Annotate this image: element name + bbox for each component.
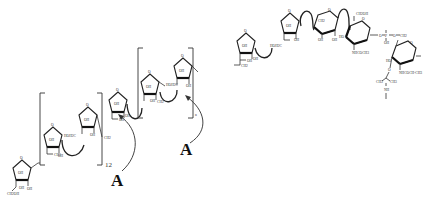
svg-text:CH2: CH2 [318,19,325,23]
svg-text:OH: OH [253,57,259,61]
svg-text:NHCOCH-CH3: NHCOCH-CH3 [399,71,422,75]
svg-text:HO: HO [386,59,392,63]
svg-text:CH3: CH3 [390,80,397,84]
svg-text:O: O [328,8,331,12]
svg-text:OH: OH [58,154,64,158]
svg-text:O: O [388,68,391,72]
svg-text:O: O [181,54,184,58]
svg-text:12: 12 [105,161,113,169]
svg-text:OH: OH [27,187,33,191]
pyranose-ring-1: O CH2 OH OH [314,8,338,42]
svg-text:O: O [393,34,396,38]
svg-text:O: O [362,17,365,21]
annotation-a-1: A [111,114,135,190]
svg-text:OH: OH [84,118,90,122]
svg-text:HOH2C: HOH2C [166,83,179,87]
svg-text:O: O [288,9,291,13]
furanose-ring-2: O OH CH2 OH HOH2C [44,123,77,158]
svg-text:n: n [195,113,197,117]
svg-text:O: O [20,156,23,160]
svg-text:OH: OH [90,133,96,137]
svg-text:OH: OH [242,44,248,48]
svg-text:O: O [244,29,247,33]
glycosidic-link-2-3 [62,140,84,156]
lactyl-side-chain: O CH3 CH3 NH [376,68,397,99]
furanose-ring-1: O OH OH OH CH2OH [7,156,38,196]
svg-text:OH: OH [18,171,24,175]
svg-text:OH: OH [384,41,390,45]
svg-text:NHCOCH3: NHCOCH3 [352,51,369,55]
svg-text:HOH2C: HOH2C [64,134,77,138]
svg-text:OH: OH [49,138,55,142]
svg-text:OH: OH [247,59,253,63]
pyranose-ring-2: CH2OH O HO NHCOCH3 [339,12,378,55]
furanose-ring-5: O OH OH CH2 [141,70,165,104]
svg-text:OH: OH [318,38,324,42]
label-a-2: A [180,140,193,159]
svg-text:O: O [379,34,382,38]
svg-text:NH: NH [384,88,390,92]
svg-text:HOH2C: HOH2C [270,44,283,48]
glycosidic-link-8-p1 [300,11,314,30]
svg-text:P: P [385,34,387,38]
svg-text:O: O [410,41,413,45]
svg-text:CH2: CH2 [400,34,407,38]
glycosidic-link-5-6 [160,90,177,102]
svg-text:CH2: CH2 [104,136,111,140]
svg-text:O: O [86,103,89,107]
svg-text:O: O [148,70,151,74]
svg-text:HO: HO [339,35,345,39]
svg-text:OH: OH [186,84,192,88]
svg-text:OH: OH [146,85,152,89]
svg-text:CH2: CH2 [157,100,164,104]
svg-text:OH: OH [114,102,120,106]
annotation-a-2: A [180,95,203,159]
label-a-1: A [111,171,124,190]
polysaccharide-structure-diagram: O OH OH OH CH2OH 12 O OH CH2 OH HOH2C O … [0,0,437,206]
glycosidic-link-p1-p2 [338,9,350,30]
svg-text:O: O [51,123,54,127]
svg-text:OH: OH [19,186,25,190]
svg-text:OH: OH [150,99,156,103]
svg-text:OH: OH [286,24,292,28]
svg-text:O: O [116,88,119,92]
svg-text:CH2OH: CH2OH [356,12,368,16]
pyranose-ring-3: O HO NHCOCH-CH3 [386,40,422,75]
furanose-ring-8: O OH HOH2C OH [270,9,300,48]
svg-text:OH: OH [179,69,185,73]
svg-text:OH: OH [332,38,338,42]
svg-text:CH2: CH2 [241,64,248,68]
furanose-ring-3: O OH OH CH2 [79,103,111,140]
svg-text:CH3: CH3 [376,80,383,84]
svg-text:CH2OH: CH2OH [7,192,19,196]
svg-text:OH: OH [294,38,300,42]
